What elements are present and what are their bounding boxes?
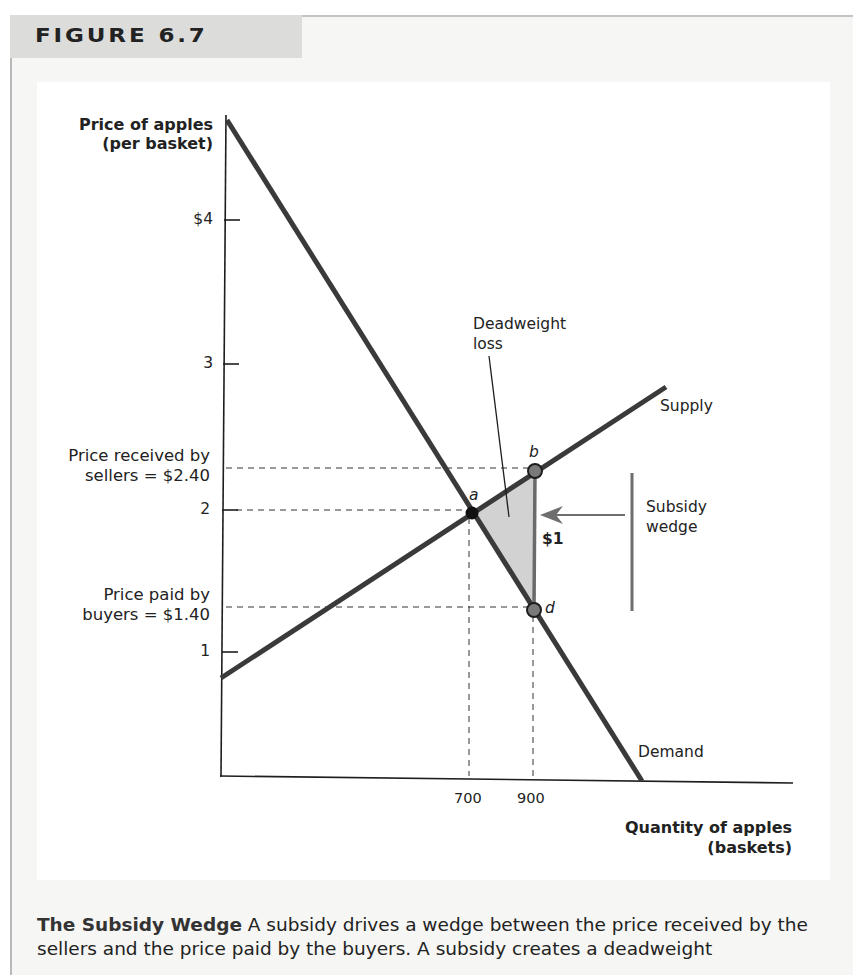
- point-a-label: a: [469, 486, 479, 505]
- deadweight-pointer: [489, 356, 509, 517]
- price-paid-line2: buyers = $1.40: [82, 605, 210, 625]
- subsidy-amount-label: $1: [542, 530, 564, 549]
- subsidy-wedge-label: Subsidy wedge: [646, 497, 707, 537]
- deadweight-line1: Deadweight: [473, 314, 566, 334]
- figure-caption: The Subsidy Wedge A subsidy drives a wed…: [37, 913, 827, 961]
- x-axis-title-line1: Quantity of apples: [625, 818, 792, 838]
- supply-curve: [221, 387, 666, 678]
- demand-label: Demand: [638, 743, 704, 762]
- subsidy-line1: Subsidy: [646, 497, 707, 517]
- subsidy-gap-line: [534, 472, 535, 610]
- point-b: [528, 464, 542, 478]
- price-received-label: Price received by sellers = $2.40: [68, 446, 210, 486]
- y-tick-label-1: 1: [200, 642, 210, 661]
- y-tick-label-3: 3: [203, 354, 213, 373]
- demand-curve: [227, 120, 642, 781]
- subsidy-line2: wedge: [646, 517, 707, 537]
- y-axis-title-line2: (per basket): [79, 134, 213, 153]
- point-b-label: b: [529, 443, 539, 462]
- x-tick-label-700: 700: [454, 789, 482, 808]
- axes: [220, 115, 793, 783]
- price-received-line1: Price received by: [68, 446, 210, 466]
- deadweight-loss-label: Deadweight loss: [473, 314, 566, 354]
- price-received-line2: sellers = $2.40: [68, 466, 210, 486]
- supply-label: Supply: [660, 397, 713, 416]
- x-tick-label-900: 900: [517, 789, 545, 808]
- y-tick-label-4: $4: [193, 210, 213, 229]
- point-d: [527, 603, 541, 617]
- point-a: [466, 507, 479, 520]
- point-d-label: d: [545, 599, 555, 618]
- y-axis-title-line1: Price of apples: [79, 115, 213, 134]
- y-tick-label-2: 2: [200, 500, 210, 519]
- x-axis-title: Quantity of apples (baskets): [625, 818, 792, 858]
- y-axis-title: Price of apples (per basket): [79, 115, 213, 153]
- x-axis: [220, 776, 793, 783]
- caption-title: The Subsidy Wedge: [37, 914, 242, 935]
- price-paid-label: Price paid by buyers = $1.40: [82, 585, 210, 625]
- x-axis-title-line2: (baskets): [625, 838, 792, 858]
- deadweight-line2: loss: [473, 334, 566, 354]
- price-paid-line1: Price paid by: [82, 585, 210, 605]
